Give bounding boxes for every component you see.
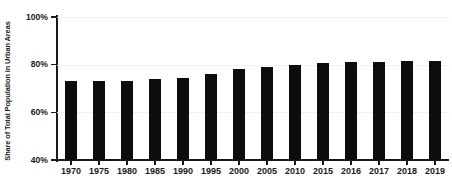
- x-tick-mark: [70, 160, 72, 165]
- bar: [65, 81, 78, 160]
- y-tick-label: 40%: [8, 156, 48, 165]
- y-tick-label: 60%: [8, 108, 48, 117]
- x-tick-mark: [294, 160, 296, 165]
- x-tick-mark: [98, 160, 100, 165]
- x-tick-mark: [238, 160, 240, 165]
- bar: [429, 61, 442, 160]
- bar: [345, 62, 358, 160]
- x-tick-mark: [406, 160, 408, 165]
- bar-chart: Share of Total Population in Urban Areas…: [0, 0, 452, 182]
- y-tick-label: 80%: [8, 60, 48, 69]
- bar: [373, 62, 386, 160]
- x-tick-mark: [434, 160, 436, 165]
- bar: [289, 65, 302, 160]
- gridline: [57, 17, 449, 18]
- plot-area: [57, 17, 449, 160]
- x-tick-mark: [266, 160, 268, 165]
- bar: [205, 74, 218, 160]
- x-tick-mark: [350, 160, 352, 165]
- bar: [317, 63, 330, 160]
- bar: [401, 61, 414, 160]
- bar: [177, 78, 190, 160]
- x-tick-mark: [182, 160, 184, 165]
- y-tick-label: 100%: [8, 13, 48, 22]
- x-tick-mark: [322, 160, 324, 165]
- bar: [149, 79, 162, 160]
- x-tick-label: 2019: [415, 167, 452, 176]
- bar: [93, 81, 106, 160]
- gridline: [57, 65, 449, 66]
- bar: [233, 69, 246, 160]
- x-tick-mark: [210, 160, 212, 165]
- x-tick-mark: [378, 160, 380, 165]
- bar: [261, 67, 274, 160]
- gridline: [57, 112, 449, 113]
- bar: [121, 81, 134, 160]
- x-tick-mark: [154, 160, 156, 165]
- x-tick-mark: [126, 160, 128, 165]
